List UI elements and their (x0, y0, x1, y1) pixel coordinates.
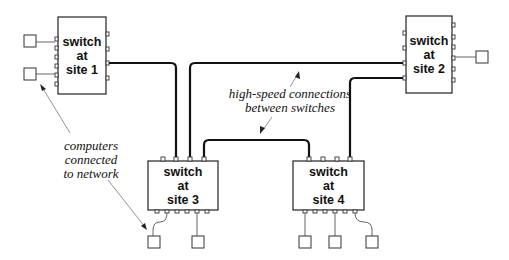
computer-icon (24, 35, 36, 47)
link-site3-site4 (204, 140, 309, 160)
computer-icon (24, 68, 36, 80)
computer-icon (329, 236, 341, 248)
computer-icon (476, 51, 488, 63)
computer-icon (366, 236, 378, 248)
computer-icon (192, 236, 204, 248)
arrowhead-icon (141, 223, 147, 230)
arrowhead-icon (260, 126, 265, 134)
computer-icon (299, 236, 311, 248)
switch-site1-label: switch at site 1 (58, 35, 106, 77)
computers-annotation: computers connected to network (56, 139, 126, 181)
switch-site2-label: switch at site 2 (406, 34, 452, 76)
arrow-to-computer-site3 (108, 180, 145, 227)
network-diagram: switch at site 1 switch at site 2 switch… (0, 0, 509, 260)
high-speed-annotation: high-speed connections between switches (210, 87, 370, 115)
arrowhead-icon (40, 84, 46, 91)
switch-site3-label: switch at site 3 (148, 165, 218, 207)
computer-icon (148, 236, 160, 248)
switch-site4-label: switch at site 4 (293, 165, 364, 207)
